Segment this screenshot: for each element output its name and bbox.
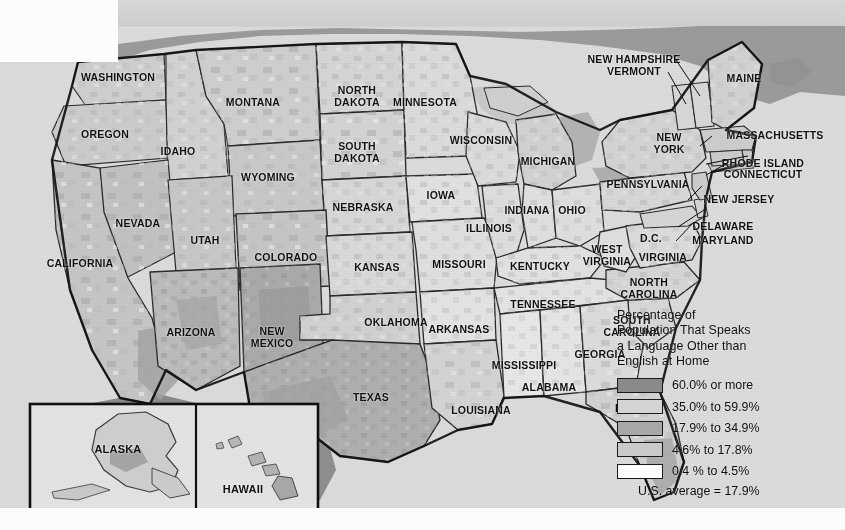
state-oregon xyxy=(52,100,168,166)
scan-corner-white xyxy=(0,0,118,62)
scan-bottom-white xyxy=(0,508,845,530)
legend-row-3: 4.6% to 17.8% xyxy=(617,441,841,459)
legend-title-line-1: Percentage of xyxy=(617,308,841,323)
legend-row-0: 60.0% or more xyxy=(617,376,841,394)
state-arkansas xyxy=(420,288,496,344)
legend-average-note: U.S. average = 17.9% xyxy=(638,484,841,498)
legend-label-2: 17.9% to 34.9% xyxy=(672,421,760,435)
state-ohio xyxy=(552,184,604,246)
scan-top-band xyxy=(0,0,845,26)
map-figure: WASHINGTONOREGONIDAHOMONTANAWYOMINGNEVAD… xyxy=(0,0,845,530)
legend-swatch-2 xyxy=(617,421,663,436)
legend-title-line-2: Population That Speaks xyxy=(617,323,841,338)
state-north-dakota xyxy=(316,42,404,114)
legend-row-1: 35.0% to 59.9% xyxy=(617,398,841,416)
state-iowa xyxy=(406,174,482,222)
state-utah xyxy=(168,176,236,272)
legend-swatch-1 xyxy=(617,399,663,414)
state-connecticut xyxy=(710,150,744,166)
legend-label-0: 60.0% or more xyxy=(672,378,753,392)
legend-label-1: 35.0% to 59.9% xyxy=(672,400,760,414)
legend-swatch-4 xyxy=(617,464,663,479)
state-kansas xyxy=(326,232,416,296)
state-mississippi xyxy=(500,310,544,398)
state-south-dakota xyxy=(320,110,406,180)
legend-label-4: 0.4 % to 4.5% xyxy=(672,464,749,478)
state-missouri xyxy=(412,218,498,292)
legend-class-list: 60.0% or more35.0% to 59.9%17.9% to 34.9… xyxy=(617,376,841,480)
legend-title: Percentage of Population That Speaks a L… xyxy=(617,308,841,369)
state-indiana xyxy=(522,184,556,248)
state-wyoming xyxy=(228,140,324,216)
legend-title-line-4: English at Home xyxy=(617,354,841,369)
legend-label-3: 4.6% to 17.8% xyxy=(672,443,753,457)
legend-title-line-3: a Language Other than xyxy=(617,339,841,354)
map-legend: Percentage of Population That Speaks a L… xyxy=(617,308,841,498)
legend-row-4: 0.4 % to 4.5% xyxy=(617,462,841,480)
inset-frame xyxy=(30,404,318,514)
legend-swatch-3 xyxy=(617,442,663,457)
state-nebraska xyxy=(322,176,410,236)
legend-swatch-0 xyxy=(617,378,663,393)
state-alabama xyxy=(540,306,586,396)
legend-row-2: 17.9% to 34.9% xyxy=(617,419,841,437)
